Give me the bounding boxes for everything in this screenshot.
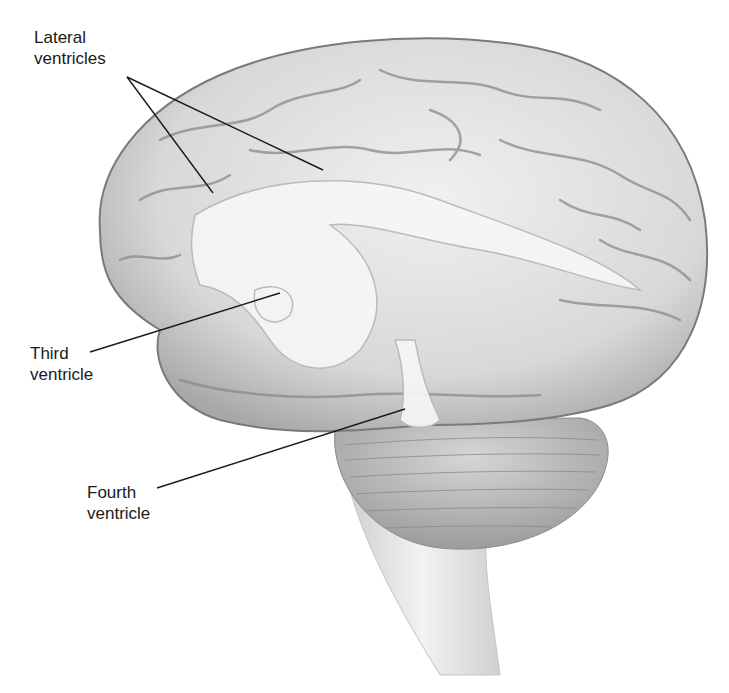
label-third-line2: ventricle	[30, 364, 93, 385]
label-third-ventricle: Third ventricle	[30, 343, 93, 385]
label-lateral-ventricles: Lateral ventricles	[34, 27, 106, 69]
label-fourth-ventricle: Fourth ventricle	[87, 482, 150, 524]
label-lateral-line2: ventricles	[34, 48, 106, 69]
label-third-line1: Third	[30, 343, 93, 364]
label-lateral-line1: Lateral	[34, 27, 106, 48]
brain-ventricles-diagram: Lateral ventricles Third ventricle Fourt…	[0, 0, 729, 693]
label-fourth-line2: ventricle	[87, 503, 150, 524]
brain-illustration	[0, 0, 729, 693]
label-fourth-line1: Fourth	[87, 482, 150, 503]
